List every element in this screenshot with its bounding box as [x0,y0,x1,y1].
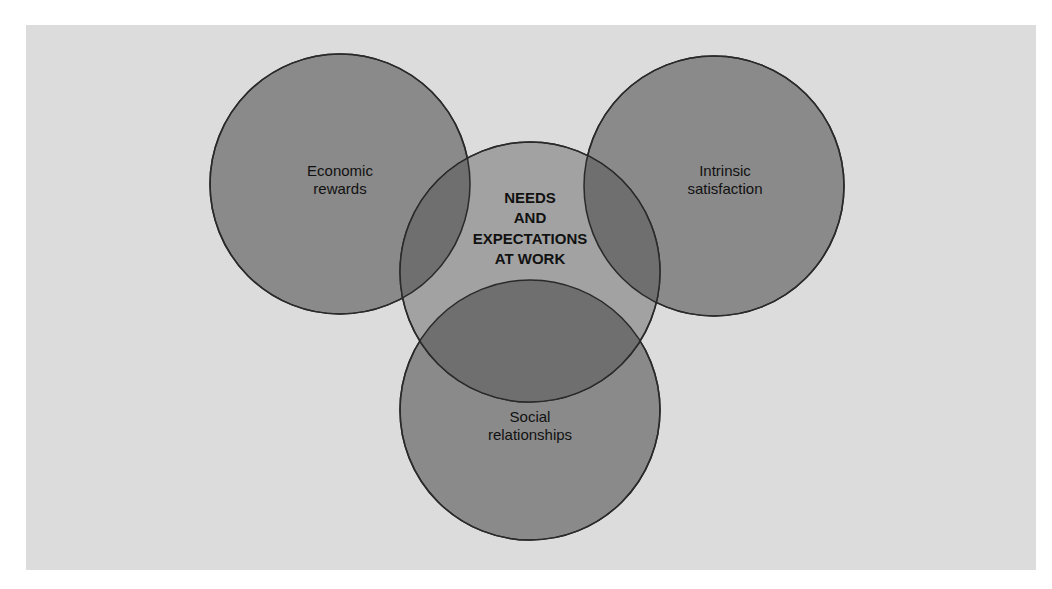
label-needs-expectations: NEEDS AND EXPECTATIONS AT WORK [440,188,620,269]
label-economic-rewards: Economic rewards [270,162,410,198]
label-intrinsic-satisfaction: Intrinsic satisfaction [655,162,795,198]
label-social-relationships: Social relationships [460,408,600,444]
venn-diagram [0,0,1052,589]
